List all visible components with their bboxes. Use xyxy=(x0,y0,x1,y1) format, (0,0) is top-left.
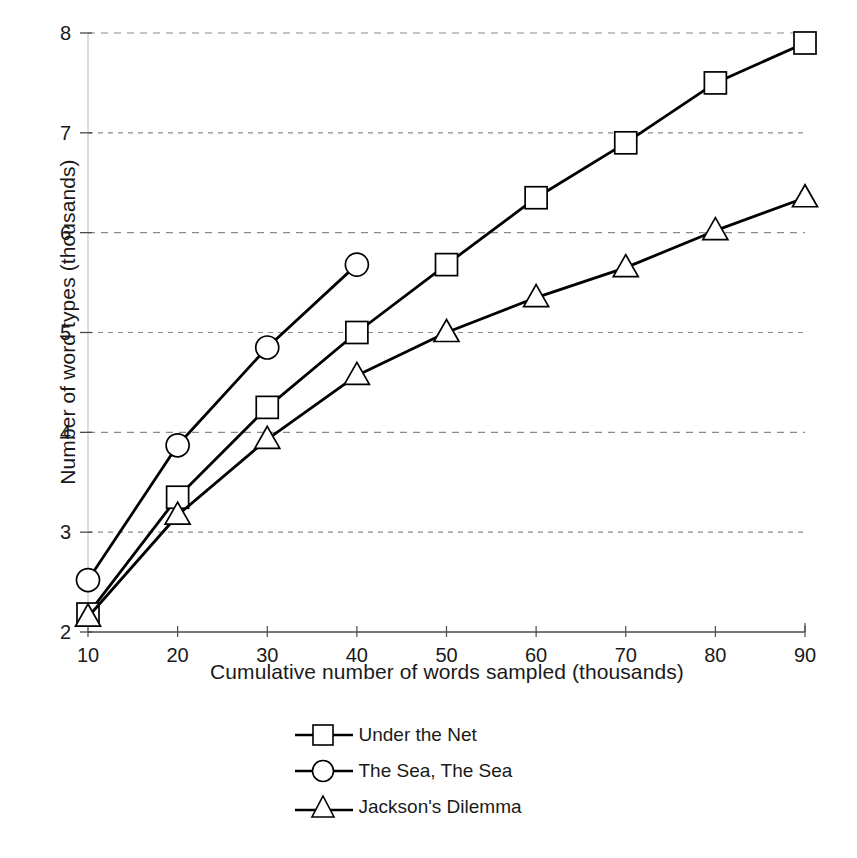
plot-area: 2345678 102030405060708090 xyxy=(0,0,857,680)
legend-item-the-sea-the-sea: The Sea, The Sea xyxy=(293,754,565,787)
svg-text:5: 5 xyxy=(60,322,71,344)
gridlines xyxy=(88,33,805,532)
x-axis xyxy=(88,623,805,637)
svg-text:4: 4 xyxy=(60,421,71,443)
svg-text:3: 3 xyxy=(60,521,71,543)
legend-label: Under the Net xyxy=(359,724,477,746)
chart-figure: Number of word types (thousands) 2345678… xyxy=(0,0,857,858)
svg-text:2: 2 xyxy=(60,621,71,643)
legend-label: Jackson's Dilemma xyxy=(359,796,522,818)
square-marker-icon xyxy=(293,720,355,750)
svg-text:6: 6 xyxy=(60,222,71,244)
chart-legend: Under the Net The Sea, The Sea Jackson's… xyxy=(0,718,857,823)
triangle-marker-icon xyxy=(293,792,355,822)
data-series xyxy=(76,32,818,626)
legend-label: The Sea, The Sea xyxy=(359,760,513,782)
y-tick-labels: 2345678 xyxy=(60,22,71,643)
svg-text:7: 7 xyxy=(60,122,71,144)
svg-text:8: 8 xyxy=(60,22,71,44)
y-axis xyxy=(80,33,92,632)
legend-item-jacksons-dilemma: Jackson's Dilemma xyxy=(293,790,565,823)
circle-marker-icon xyxy=(293,756,355,786)
legend-item-under-the-net: Under the Net xyxy=(293,718,565,751)
x-axis-title: Cumulative number of words sampled (thou… xyxy=(88,660,806,684)
